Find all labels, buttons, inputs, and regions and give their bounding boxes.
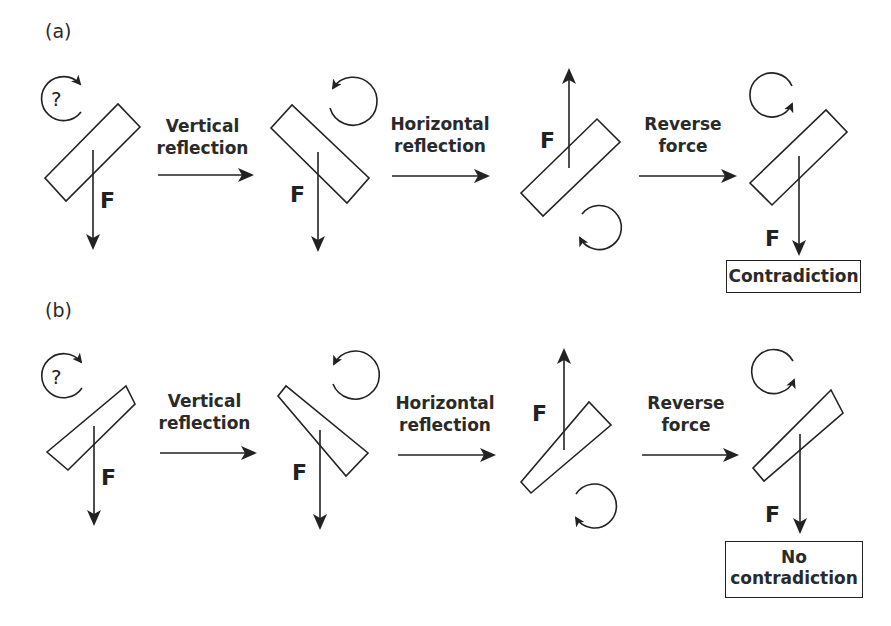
step-label-a2-line1: Horizontal (384, 113, 496, 135)
rotation-cw-icon-a4 (750, 73, 792, 117)
force-label-a4: F (765, 226, 780, 251)
step-label-b3-line1: Reverse (643, 392, 729, 414)
step-label-b2-line2: reflection (389, 414, 501, 436)
panel-label-a: (a) (45, 20, 71, 42)
rotation-cw-icon-b4 (752, 350, 794, 394)
panel-a (42, 70, 847, 254)
result-contradiction: Contradiction (726, 260, 861, 293)
rotation-unknown-icon-b1 (42, 354, 82, 398)
step-label-b2-line1: Horizontal (389, 392, 501, 414)
result-no-contradiction: No contradiction (725, 541, 863, 598)
object-rectangle-a3 (521, 119, 620, 216)
diagram-canvas: ? ? (0, 0, 891, 626)
rotation-ccw-icon-a2 (330, 77, 377, 125)
force-label-a2: F (290, 182, 305, 207)
object-tapered-b1 (47, 386, 135, 470)
step-label-a3-line2: force (640, 135, 726, 157)
question-mark-a: ? (51, 87, 62, 111)
force-label-b3: F (532, 401, 547, 426)
step-label-b1-line1: Vertical (152, 390, 257, 412)
step-label-a2: Horizontal reflection (384, 113, 496, 157)
step-label-b3: Reverse force (643, 392, 729, 436)
question-mark-b: ? (51, 365, 62, 389)
panel-b (42, 350, 843, 532)
step-label-a2-line2: reflection (384, 135, 496, 157)
step-label-a3: Reverse force (640, 113, 726, 157)
step-label-b1: Vertical reflection (152, 390, 257, 434)
panel-label-b: (b) (45, 299, 72, 321)
step-label-a3-line1: Reverse (640, 113, 726, 135)
step-label-a1: Vertical reflection (150, 115, 255, 159)
step-label-a1-line2: reflection (150, 137, 255, 159)
force-label-a1: F (100, 188, 115, 213)
rotation-ccw-icon-b2 (333, 351, 379, 399)
result-no-contradiction-line1: No (726, 547, 862, 568)
result-no-contradiction-line2: contradiction (726, 568, 862, 589)
step-label-a1-line1: Vertical (150, 115, 255, 137)
step-label-b2: Horizontal reflection (389, 392, 501, 436)
step-label-b1-line2: reflection (152, 412, 257, 434)
object-tapered-b4 (753, 390, 843, 481)
object-rectangle-a2 (271, 105, 369, 203)
force-label-b1: F (101, 465, 116, 490)
force-label-b4: F (765, 502, 780, 527)
step-label-b3-line2: force (643, 414, 729, 436)
rotation-ccw-icon-b3 (576, 484, 616, 528)
force-label-a3: F (540, 128, 555, 153)
rotation-ccw-icon-a3 (580, 206, 621, 250)
force-label-b2: F (292, 460, 307, 485)
